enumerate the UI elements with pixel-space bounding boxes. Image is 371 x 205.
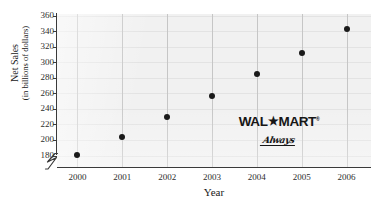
- y-tick-label: 180: [30, 151, 54, 160]
- y-tick-mark: [53, 47, 57, 48]
- y-tick-mark: [53, 31, 57, 32]
- y-tick-label: 280: [30, 73, 54, 82]
- horizontal-gridline: [57, 156, 371, 157]
- data-point: [344, 26, 350, 32]
- data-point: [164, 114, 170, 120]
- cropped-caption-above: [60, 0, 371, 5]
- x-axis-title: Year: [57, 186, 371, 198]
- x-tick-label: 2003: [190, 172, 234, 182]
- horizontal-gridline: [57, 124, 371, 125]
- vertical-gridline: [122, 14, 123, 168]
- horizontal-gridline: [57, 78, 371, 79]
- y-axis-title: Net Sales (in billions of dollars): [9, 8, 31, 118]
- vertical-gridline: [347, 14, 348, 168]
- horizontal-gridline: [57, 62, 371, 63]
- x-tick-label: 2006: [325, 172, 369, 182]
- vertical-gridline: [212, 14, 213, 168]
- net-sales-scatter-chart: 360340320300280260240220200180 200020012…: [0, 0, 371, 205]
- vertical-gridline: [257, 14, 258, 168]
- horizontal-gridline: [57, 109, 371, 110]
- data-point: [254, 71, 260, 77]
- y-tick-labels: 360340320300280260240220200180: [29, 0, 54, 205]
- x-tick-label: 2005: [280, 172, 324, 182]
- y-tick-mark: [53, 16, 57, 17]
- y-tick-mark: [53, 124, 57, 125]
- y-axis-title-sub: (in billions of dollars): [20, 8, 31, 118]
- y-tick-label: 300: [30, 58, 54, 67]
- horizontal-gridline: [57, 31, 371, 32]
- horizontal-gridline: [57, 16, 371, 17]
- y-tick-label: 320: [30, 42, 54, 51]
- y-tick-mark: [53, 109, 57, 110]
- plot-area: [57, 14, 371, 168]
- y-tick-label: 360: [30, 11, 54, 20]
- y-tick-label: 240: [30, 104, 54, 113]
- y-tick-label: 220: [30, 120, 54, 129]
- y-tick-mark: [53, 93, 57, 94]
- y-tick-label: 200: [30, 135, 54, 144]
- y-tick-mark: [53, 140, 57, 141]
- y-axis-line: [56, 13, 57, 155]
- vertical-gridline: [77, 14, 78, 168]
- y-tick-mark: [53, 62, 57, 63]
- horizontal-gridline: [57, 140, 371, 141]
- x-axis-line: [57, 167, 371, 168]
- x-tick-label: 2004: [235, 172, 279, 182]
- data-point: [299, 50, 305, 56]
- x-tick-label: 2001: [100, 172, 144, 182]
- vertical-gridline: [167, 14, 168, 168]
- vertical-gridline: [302, 14, 303, 168]
- x-tick-label: 2002: [145, 172, 189, 182]
- horizontal-gridline: [57, 47, 371, 48]
- y-tick-mark: [53, 156, 57, 157]
- y-tick-label: 340: [30, 27, 54, 36]
- y-axis-title-main: Net Sales: [9, 44, 20, 82]
- x-tick-label: 2000: [55, 172, 99, 182]
- y-tick-label: 260: [30, 89, 54, 98]
- y-tick-mark: [53, 78, 57, 79]
